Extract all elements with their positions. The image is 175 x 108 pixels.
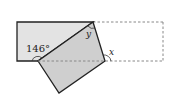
diagram-canvas: 146° y x [0,0,175,108]
angle-label-146: 146° [26,43,50,54]
folded-rectangle-diagram: 146° y x [0,0,175,108]
angle-label-y: y [85,29,92,39]
angle-label-x: x [109,47,114,57]
